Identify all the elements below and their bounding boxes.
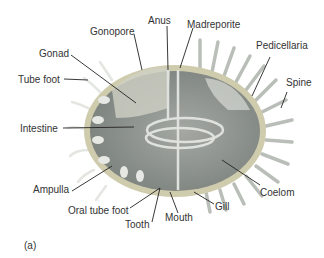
label-spine: Spine bbox=[286, 77, 312, 88]
label-mouth: Mouth bbox=[165, 212, 193, 223]
label-oral-tube-foot: Oral tube foot bbox=[68, 205, 129, 216]
label-gonad: Gonad bbox=[39, 48, 69, 59]
panel-label: (a) bbox=[24, 240, 36, 251]
label-anus: Anus bbox=[148, 15, 171, 26]
label-madreporite: Madreporite bbox=[187, 19, 240, 30]
label-gonopore: Gonopore bbox=[90, 26, 134, 37]
label-gill: Gill bbox=[215, 201, 229, 212]
label-coelom: Coelom bbox=[260, 187, 294, 198]
label-ampulla: Ampulla bbox=[33, 184, 69, 195]
label-pedicellaria: Pedicellaria bbox=[256, 40, 308, 51]
label-tooth: Tooth bbox=[125, 219, 149, 230]
label-tube-foot: Tube foot bbox=[18, 74, 60, 85]
label-intestine: Intestine bbox=[20, 123, 58, 134]
